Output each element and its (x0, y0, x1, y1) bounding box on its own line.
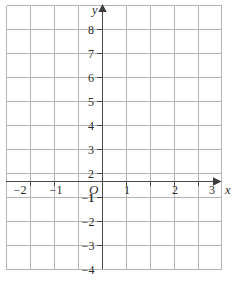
y-tick-label-neg4: −4 (78, 264, 98, 276)
y-tick-label-2: 2 (84, 168, 98, 180)
y-axis-label: y (92, 4, 98, 17)
y-tick-label-neg2: −2 (78, 216, 98, 228)
y-tick-label-3: 3 (84, 144, 98, 156)
x-tick-label-3: 3 (205, 184, 219, 196)
x-tick-label-1: 1 (120, 184, 134, 196)
y-tick-label-8: 8 (84, 24, 98, 36)
y-tick-label-7: 7 (84, 48, 98, 60)
y-tick-label-4: 4 (84, 120, 98, 132)
x-tick-label-neg2: −2 (10, 184, 30, 196)
y-tick-label-5: 5 (84, 96, 98, 108)
y-tick-label-6: 6 (84, 72, 98, 84)
coordinate-grid-figure: y x O 8 7 6 5 4 3 2 1 −1 −2 −3 −4 −2 −1 … (0, 0, 236, 286)
x-tick-label-2: 2 (168, 184, 182, 196)
x-axis-label: x (225, 184, 231, 197)
y-tick-label-neg3: −3 (78, 240, 98, 252)
y-tick-label-neg1: −1 (78, 192, 98, 204)
figure-background (0, 0, 236, 286)
x-tick-label-neg1: −1 (46, 184, 66, 196)
grid-and-axes (0, 0, 236, 286)
